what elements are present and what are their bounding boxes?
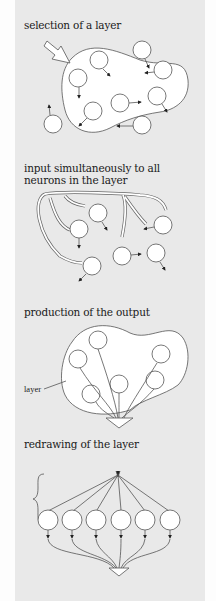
diagram-canvas — [0, 0, 216, 601]
layer-blob-output — [61, 326, 188, 414]
output-arrowhead — [106, 418, 133, 428]
output-arrowhead-2 — [109, 568, 129, 576]
selection-arrow — [44, 41, 70, 63]
layer-blob — [62, 48, 188, 132]
